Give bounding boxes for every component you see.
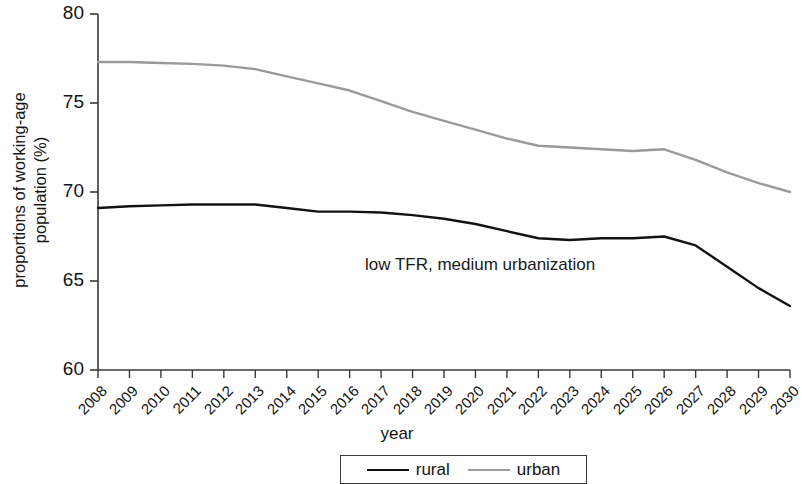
y-axis-tick-label: 80 — [38, 2, 84, 24]
legend-item-urban[interactable]: urban — [468, 460, 560, 480]
x-axis-ticks — [98, 370, 790, 378]
legend-label-urban: urban — [517, 460, 560, 480]
y-axis-ticks — [90, 14, 98, 370]
y-axis-tick-label: 65 — [38, 269, 84, 291]
y-axis-tick-label: 75 — [38, 91, 84, 113]
legend-label-rural: rural — [416, 460, 450, 480]
legend-line-urban-icon — [468, 469, 510, 471]
legend-line-rural-icon — [367, 469, 409, 471]
legend-item-rural[interactable]: rural — [367, 460, 450, 480]
y-axis-tick-label: 70 — [38, 180, 84, 202]
axes — [98, 14, 790, 370]
y-axis-tick-label: 60 — [38, 358, 84, 380]
chart-legend: rural urban — [340, 455, 587, 484]
x-axis-title: year — [0, 424, 794, 444]
series-line-urban — [98, 62, 790, 192]
chart-annotation: low TFR, medium urbanization — [365, 255, 595, 275]
